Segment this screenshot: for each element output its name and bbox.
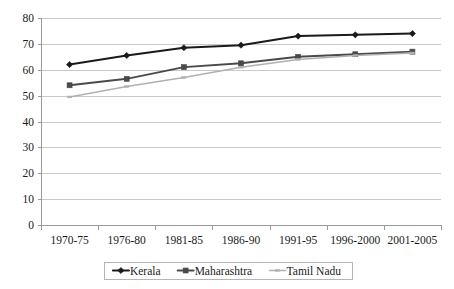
gridlines: [41, 19, 441, 226]
series-tamil-nadu: [67, 52, 414, 98]
legend-item-tamil-nadu[interactable]: Tamil Nadu: [270, 265, 342, 277]
data-point-marker: [181, 65, 186, 70]
x-tick-label: 1996-2000: [330, 234, 380, 246]
data-point-marker: [239, 66, 243, 68]
legend-label: Tamil Nadu: [287, 265, 342, 277]
data-point-marker: [238, 42, 244, 48]
line-chart: 01020304050607080 1970-751976-801981-851…: [0, 0, 454, 289]
y-tick-label: 0: [28, 219, 34, 231]
y-tick-label: 20: [23, 167, 35, 179]
data-point-marker: [352, 32, 358, 38]
chart-canvas: 01020304050607080 1970-751976-801981-851…: [0, 0, 454, 289]
legend-label: Kerala: [130, 265, 161, 277]
y-tick-label: 10: [23, 193, 35, 205]
data-point-marker: [410, 52, 414, 54]
y-axis: [38, 18, 42, 229]
data-point-marker: [183, 268, 188, 273]
x-axis: [41, 225, 442, 230]
data-point-marker: [275, 270, 279, 272]
x-tick-label: 1991-95: [279, 234, 318, 246]
series-line: [70, 34, 413, 65]
y-tick-label: 60: [23, 64, 35, 76]
data-point-marker: [239, 61, 244, 66]
data-point-marker: [118, 267, 124, 273]
x-tick-labels: 1970-751976-801981-851986-901991-951996-…: [50, 234, 437, 246]
data-point-marker: [66, 61, 72, 67]
data-point-marker: [182, 77, 186, 79]
x-tick-label: 1976-80: [108, 234, 147, 246]
series-line: [70, 53, 413, 97]
chart-legend: KeralaMaharashtraTamil Nadu: [104, 263, 352, 280]
data-point-marker: [409, 30, 415, 36]
legend-item-kerala[interactable]: Kerala: [113, 265, 161, 277]
y-tick-label: 30: [23, 141, 35, 153]
data-point-marker: [124, 76, 129, 81]
data-point-marker: [353, 55, 357, 57]
data-point-marker: [181, 45, 187, 51]
y-tick-labels: 01020304050607080: [23, 12, 35, 231]
legend-item-maharashtra[interactable]: Maharashtra: [178, 265, 252, 277]
x-tick-label: 2001-2005: [388, 234, 438, 246]
data-point-marker: [296, 58, 300, 60]
data-point-marker: [67, 83, 72, 88]
y-tick-label: 50: [23, 90, 35, 102]
x-tick-label: 1986-90: [222, 234, 261, 246]
y-tick-label: 70: [23, 38, 35, 50]
legend-label: Maharashtra: [195, 265, 252, 277]
data-point-marker: [125, 86, 129, 88]
data-point-marker: [124, 52, 130, 58]
data-series: [66, 30, 415, 97]
data-point-marker: [67, 96, 71, 98]
x-tick-label: 1981-85: [165, 234, 204, 246]
y-tick-label: 80: [23, 12, 35, 24]
x-tick-label: 1970-75: [50, 234, 89, 246]
data-point-marker: [295, 33, 301, 39]
y-tick-label: 40: [23, 116, 35, 128]
